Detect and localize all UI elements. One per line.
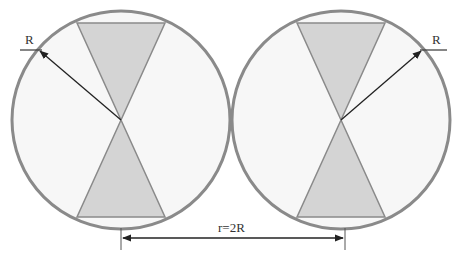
left-radius-label: R	[25, 32, 34, 47]
diagram-canvas: R R r=2R	[0, 0, 461, 259]
distance-label: r=2R	[218, 220, 245, 235]
left-circle-group: R	[12, 11, 230, 229]
right-circle-group: R	[232, 11, 450, 229]
right-radius-label: R	[432, 32, 441, 47]
